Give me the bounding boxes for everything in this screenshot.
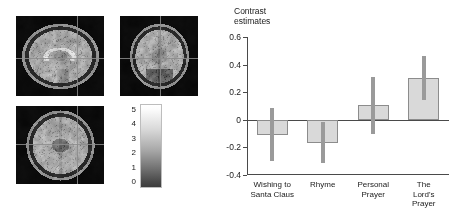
x-category-label: Rhyme xyxy=(310,180,335,190)
y-tick-mark xyxy=(243,65,247,66)
x-category-label: The Lord's Prayer xyxy=(411,180,436,209)
colorbar-tick-label: 3 xyxy=(132,135,136,143)
y-tick-label: 0.4 xyxy=(229,60,241,69)
contrast-estimates-chart: Contrast estimates 0.60.40.20-0.2-0.4 Wi… xyxy=(215,0,462,211)
plot-area: 0.60.40.20-0.2-0.4 Wishing to Santa Clau… xyxy=(247,37,449,175)
y-tick-mark xyxy=(243,147,247,148)
y-tick-label: 0.6 xyxy=(229,33,241,42)
statistic-colorbar xyxy=(140,104,162,188)
colorbar-tick-label: 4 xyxy=(132,120,136,128)
brain-slice-axial xyxy=(16,106,104,184)
colorbar-tick-label: 1 xyxy=(132,164,136,172)
y-tick-label: -0.2 xyxy=(226,143,241,152)
y-tick-mark xyxy=(243,92,247,93)
colorbar-tick-label: 5 xyxy=(132,106,136,114)
error-bar xyxy=(371,77,375,134)
axial-image xyxy=(16,106,104,184)
x-category-label: Wishing to Santa Claus xyxy=(250,180,294,199)
y-tick-mark xyxy=(243,120,247,121)
error-bar xyxy=(422,56,426,100)
colorbar-tick-label: 0 xyxy=(132,178,136,186)
coronal-image xyxy=(120,16,198,96)
chart-title: Contrast estimates xyxy=(234,6,270,26)
brain-slices-panel: 543210 xyxy=(0,0,215,211)
y-tick-label: 0.2 xyxy=(229,88,241,97)
colorbar-tick-labels: 543210 xyxy=(118,104,136,188)
y-axis-line xyxy=(247,37,248,175)
y-tick-label: -0.4 xyxy=(226,171,241,180)
sagittal-image xyxy=(16,16,104,96)
y-tick-mark xyxy=(243,175,247,176)
brain-contrast-figure: 543210 Contrast estimates 0.60.40.20-0.2… xyxy=(0,0,462,211)
brain-slice-coronal xyxy=(120,16,198,96)
y-tick-mark xyxy=(243,37,247,38)
brain-slice-sagittal xyxy=(16,16,104,96)
x-category-label: Personal Prayer xyxy=(357,180,389,199)
colorbar-tick-label: 2 xyxy=(132,149,136,157)
colorbar-group: 543210 xyxy=(118,104,178,188)
x-axis-line xyxy=(247,174,449,175)
error-bar xyxy=(270,108,274,161)
y-tick-label: 0 xyxy=(236,116,241,125)
error-bar xyxy=(321,122,325,163)
